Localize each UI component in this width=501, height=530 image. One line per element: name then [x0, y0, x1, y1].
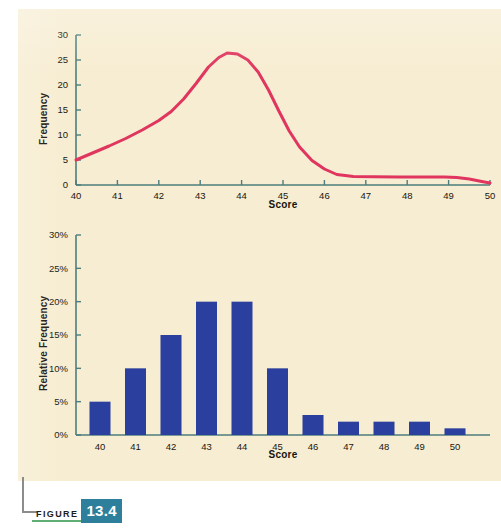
histogram-bar	[409, 422, 430, 435]
histogram-bar	[338, 422, 359, 435]
histogram-y-axis-title: Relative Frequency	[38, 296, 49, 391]
y-tick-label: 30%	[49, 229, 69, 240]
histogram-bar	[125, 368, 146, 435]
histogram-x-axis-title: Score	[76, 449, 490, 460]
relative-frequency-histogram-chart: 0%5%10%15%20%25%30%404142434445464748495…	[18, 223, 501, 473]
frequency-curve-chart: 0510152025304041424344454647484950 Frequ…	[18, 13, 501, 223]
figure-number-badge: 13.4	[81, 499, 121, 523]
figure-label-word: FIGURE	[36, 509, 78, 523]
y-tick-label: 10	[57, 129, 68, 140]
histogram-bar	[267, 368, 288, 435]
figure-panel: 0510152025304041424344454647484950 Frequ…	[18, 9, 501, 481]
relative-frequency-histogram-plot: 0%5%10%15%20%25%30%404142434445464748495…	[18, 223, 501, 473]
y-tick-label: 15%	[49, 329, 69, 340]
histogram-bar	[196, 302, 217, 435]
y-tick-label: 5%	[54, 396, 68, 407]
histogram-bar	[374, 422, 395, 435]
y-tick-label: 20%	[49, 296, 69, 307]
frequency-chart-x-axis-title: Score	[76, 199, 490, 210]
figure-caption: FIGURE 13.4	[22, 487, 122, 523]
histogram-bar	[445, 428, 466, 435]
y-tick-label: 0%	[54, 429, 68, 440]
frequency-chart-y-axis-title: Frequency	[38, 93, 49, 145]
y-tick-label: 5	[63, 154, 68, 165]
frequency-curve-line	[76, 53, 490, 183]
y-tick-label: 25%	[49, 263, 69, 274]
frequency-curve-plot: 0510152025304041424344454647484950	[18, 13, 501, 223]
y-tick-label: 20	[57, 79, 68, 90]
histogram-bar	[232, 302, 253, 435]
y-tick-label: 25	[57, 54, 68, 65]
caption-bracket	[22, 477, 38, 513]
histogram-bar	[161, 335, 182, 435]
y-tick-label: 15	[57, 104, 68, 115]
y-tick-label: 0	[63, 179, 68, 190]
y-tick-label: 30	[57, 29, 68, 40]
histogram-bar	[90, 402, 111, 435]
histogram-bar	[303, 415, 324, 435]
y-tick-label: 10%	[49, 363, 69, 374]
